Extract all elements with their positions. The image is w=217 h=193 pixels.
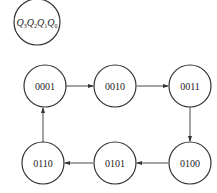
legend-node: Q3Q2Q1Q0 [14,0,60,45]
state-label: 0100 [180,158,200,169]
state-node-0010: 0010 [94,65,136,107]
state-label: 0010 [105,81,125,92]
state-diagram: Q3Q2Q1Q0 0001 0010 0011 0100 0101 0110 [0,0,217,193]
state-node-0001: 0001 [24,65,66,107]
state-label: 0101 [105,158,125,169]
state-node-0101: 0101 [94,142,136,184]
state-node-0110: 0110 [22,142,64,184]
state-node-0100: 0100 [169,142,211,184]
state-label: 0110 [33,158,53,169]
state-label: 0001 [35,81,55,92]
legend-label: Q3Q2Q1Q0 [17,17,58,29]
state-node-0011: 0011 [169,65,211,107]
state-label: 0011 [180,81,200,92]
